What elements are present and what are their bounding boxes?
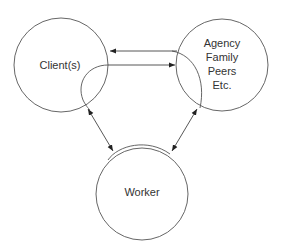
- client-overlap-arc: [81, 65, 108, 110]
- agency-label-line2: Family: [206, 51, 239, 63]
- agency-node: Agency Family Peers Etc.: [176, 19, 268, 111]
- worker-label: Worker: [124, 186, 160, 198]
- arrow-agency-worker: [172, 109, 197, 151]
- agency-label-line3: Peers: [208, 65, 237, 77]
- agency-label-line1: Agency: [204, 37, 241, 49]
- agency-label-line4: Etc.: [213, 79, 232, 91]
- client-label: Client(s): [40, 59, 81, 71]
- worker-node: Worker: [96, 148, 188, 240]
- arrow-client-worker: [88, 109, 113, 151]
- client-node: Client(s): [14, 18, 108, 112]
- relationship-diagram: Client(s) Agency Family Peers Etc. Worke…: [0, 0, 281, 251]
